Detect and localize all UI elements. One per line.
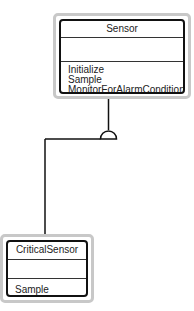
inheritance-arc-icon	[101, 131, 117, 139]
criticalsensor-attributes-compartment	[8, 259, 86, 278]
criticalsensor-operation: Sample	[15, 285, 86, 295]
criticalsensor-class-box[interactable]: CriticalSensor Sample	[6, 240, 88, 297]
sensor-class-box[interactable]: Sensor Initialize Sample MonitorForAlarm…	[59, 19, 185, 94]
sensor-class-name: Sensor	[61, 23, 183, 38]
sensor-attributes-compartment	[61, 37, 183, 61]
criticalsensor-operations-compartment: Sample	[8, 278, 86, 295]
sensor-operations-compartment: Initialize Sample MonitorForAlarmConditi…	[61, 61, 183, 92]
criticalsensor-class-name: CriticalSensor	[8, 244, 86, 259]
sensor-operation: MonitorForAlarmCondition	[68, 85, 183, 94]
